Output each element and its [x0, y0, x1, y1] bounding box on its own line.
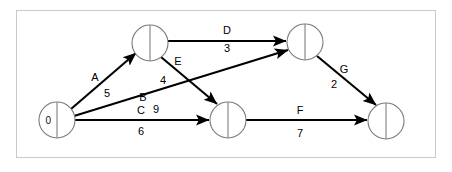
edge-A-duration: 5: [104, 87, 110, 99]
node-middle: [210, 102, 246, 138]
edge-A-label: A: [91, 71, 99, 83]
edge-E-duration: 4: [160, 74, 166, 86]
edge-C-label: C: [137, 104, 145, 116]
edge-D-label: D: [223, 24, 231, 36]
edge-G-duration: 2: [331, 78, 337, 90]
edge-F-label: F: [297, 104, 304, 116]
node-top-left: [132, 25, 168, 61]
network-diagram: A 5 B 9 C 6 D 3 E 4: [0, 0, 452, 172]
edge-C-duration: 6: [138, 125, 144, 137]
node-bottom-right: [368, 103, 404, 139]
edge-F-duration: 7: [297, 127, 303, 139]
edge-G-label: G: [340, 63, 349, 75]
diagram-canvas: A 5 B 9 C 6 D 3 E 4: [0, 0, 452, 172]
node-start-label: 0: [46, 115, 52, 126]
edge-G: G 2: [317, 56, 376, 105]
node-start: 0: [39, 102, 75, 138]
edge-E-line: [161, 57, 217, 104]
edge-B-duration: 9: [153, 103, 159, 115]
edge-F: F 7: [246, 104, 367, 139]
edge-D: D 3: [168, 24, 286, 54]
edge-E-label: E: [174, 55, 181, 67]
edge-B-label: B: [139, 91, 146, 103]
node-top-right: [287, 24, 323, 60]
edge-D-duration: 3: [224, 42, 230, 54]
edge-E: E 4: [160, 55, 217, 104]
